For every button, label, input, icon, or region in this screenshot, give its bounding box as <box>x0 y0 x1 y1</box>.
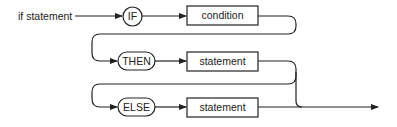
svg-text:ELSE: ELSE <box>123 101 150 113</box>
terminal-else: ELSE <box>118 98 155 116</box>
nonterminal-condition: condition <box>187 6 258 25</box>
svg-text:statement: statement <box>199 55 245 67</box>
terminal-then: THEN <box>118 52 155 70</box>
entry-label: if statement <box>18 10 72 22</box>
svg-text:statement: statement <box>199 101 245 113</box>
nonterminal-statement-else: statement <box>187 98 258 117</box>
bypass-else <box>296 72 302 107</box>
svg-text:THEN: THEN <box>122 55 151 67</box>
svg-text:IF: IF <box>128 10 137 22</box>
syntax-diagram: if statement IF condition THEN statement… <box>0 0 397 127</box>
nonterminal-statement-then: statement <box>187 52 258 71</box>
svg-text:condition: condition <box>201 9 243 21</box>
terminal-if: IF <box>123 7 142 26</box>
